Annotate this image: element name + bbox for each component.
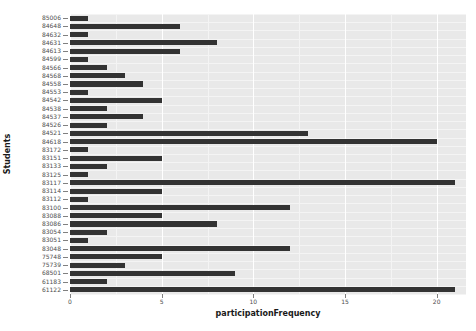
y-tick-mark <box>63 92 68 93</box>
x-tick-label: 20 <box>433 299 441 305</box>
y-tick-label: 83125 <box>42 172 61 178</box>
bar <box>70 156 162 161</box>
x-tick-label: 0 <box>68 299 72 305</box>
y-tick-label: 83172 <box>42 147 61 153</box>
y-tick-mark <box>63 191 68 192</box>
y-tick-label: 83114 <box>42 188 61 194</box>
y-tick-mark <box>63 175 68 176</box>
y-tick-label: 83112 <box>42 196 61 202</box>
x-axis: participationFrequency 05101520 <box>70 294 466 331</box>
y-tick-label: 68501 <box>42 270 61 276</box>
y-tick-mark <box>63 290 68 291</box>
bar <box>70 123 107 128</box>
bar-chart: 8500684648846328463184613845998456684568… <box>0 0 476 331</box>
y-tick-mark <box>63 59 68 60</box>
bar <box>70 24 180 29</box>
y-tick-mark <box>63 35 68 36</box>
y-tick-label: 85006 <box>42 15 61 21</box>
y-tick-label: 83051 <box>42 237 61 243</box>
x-tick-label: 15 <box>341 299 349 305</box>
y-tick-mark <box>63 224 68 225</box>
bar <box>70 197 88 202</box>
y-tick-label: 84618 <box>42 139 61 145</box>
bar <box>70 180 455 185</box>
y-tick-mark <box>63 199 68 200</box>
y-tick-mark <box>63 232 68 233</box>
y-tick-label: 83100 <box>42 205 61 211</box>
y-tick-mark <box>63 109 68 110</box>
bar <box>70 205 290 210</box>
y-tick-label: 84632 <box>42 32 61 38</box>
y-tick-label: 84558 <box>42 81 61 87</box>
y-tick-label: 83151 <box>42 155 61 161</box>
bar <box>70 114 143 119</box>
bar <box>70 73 125 78</box>
y-tick-mark <box>63 257 68 258</box>
x-tick-label: 5 <box>160 299 164 305</box>
bar <box>70 49 180 54</box>
y-tick-mark <box>63 166 68 167</box>
bar <box>70 164 107 169</box>
y-tick-mark <box>63 265 68 266</box>
y-tick-label: 84631 <box>42 40 61 46</box>
bar <box>70 172 88 177</box>
y-tick-mark <box>63 216 68 217</box>
bar <box>70 246 290 251</box>
bar <box>70 65 107 70</box>
y-tick-mark <box>63 158 68 159</box>
y-tick-label: 84537 <box>42 114 61 120</box>
bar <box>70 279 107 284</box>
bar <box>70 147 88 152</box>
bar <box>70 263 125 268</box>
bar <box>70 131 308 136</box>
bar <box>70 16 88 21</box>
y-tick-mark <box>63 133 68 134</box>
y-tick-label: 84542 <box>42 97 61 103</box>
y-tick-mark <box>63 18 68 19</box>
y-tick-label: 84553 <box>42 89 61 95</box>
y-tick-mark <box>63 249 68 250</box>
x-axis-title: participationFrequency <box>70 309 466 318</box>
bar <box>70 230 107 235</box>
y-tick-mark <box>63 150 68 151</box>
bar <box>70 32 88 37</box>
bar <box>70 238 88 243</box>
y-tick-mark <box>63 273 68 274</box>
bar <box>70 189 162 194</box>
y-axis-title: Students <box>2 14 13 294</box>
x-tick-label: 10 <box>250 299 258 305</box>
y-tick-mark <box>63 84 68 85</box>
y-tick-label: 84613 <box>42 48 61 54</box>
bar <box>70 57 88 62</box>
y-tick-label: 84526 <box>42 122 61 128</box>
y-tick-mark <box>63 183 68 184</box>
y-tick-mark <box>63 68 68 69</box>
bar <box>70 213 162 218</box>
bar <box>70 106 107 111</box>
y-tick-mark <box>63 43 68 44</box>
y-tick-label: 84538 <box>42 106 61 112</box>
bar <box>70 139 437 144</box>
y-tick-label: 84566 <box>42 65 61 71</box>
bar <box>70 40 217 45</box>
y-tick-mark <box>63 125 68 126</box>
y-tick-label: 84568 <box>42 73 61 79</box>
y-tick-mark <box>63 51 68 52</box>
y-tick-mark <box>63 117 68 118</box>
y-tick-mark <box>63 100 68 101</box>
bar <box>70 90 88 95</box>
y-tick-label: 84599 <box>42 56 61 62</box>
y-tick-mark <box>63 282 68 283</box>
bar <box>70 254 162 259</box>
y-tick-label: 83086 <box>42 221 61 227</box>
y-tick-label: 61183 <box>42 279 61 285</box>
y-tick-label: 75748 <box>42 254 61 260</box>
plot-panel <box>70 14 466 294</box>
bar <box>70 271 235 276</box>
bar <box>70 221 217 226</box>
y-tick-mark <box>63 208 68 209</box>
bars-layer <box>70 14 466 294</box>
y-tick-label: 83054 <box>42 229 61 235</box>
y-tick-label: 84521 <box>42 130 61 136</box>
y-tick-mark <box>63 76 68 77</box>
